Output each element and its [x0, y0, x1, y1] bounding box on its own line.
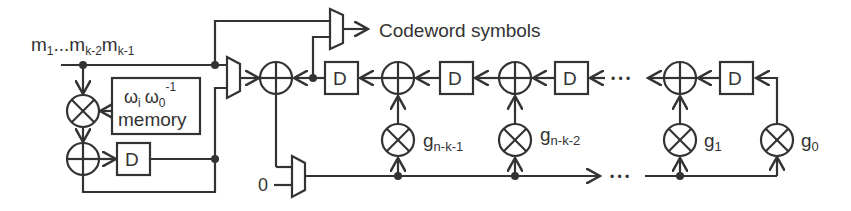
svg-text:D: D	[563, 68, 577, 89]
multiplier-icon	[761, 124, 793, 156]
ellipsis-top: • • •	[611, 72, 630, 86]
coefficient-label: gn-k-2	[540, 124, 580, 148]
input-bus	[61, 61, 227, 69]
delay-register-left: D	[117, 143, 150, 175]
svg-text:D: D	[448, 68, 462, 89]
mux-output	[330, 9, 343, 49]
adder-icon	[382, 62, 414, 94]
svg-text:D: D	[728, 68, 742, 89]
adder-icon	[260, 62, 292, 94]
memory-block: ωiω0-1 memory	[112, 78, 200, 134]
mux-input	[227, 57, 240, 98]
multiplier-icon	[664, 124, 696, 156]
multiplier-icon	[499, 124, 531, 156]
encoder-diagram: m1...mk-2mk-1 ωiω0-1 memory D	[0, 0, 851, 211]
coefficient-label: gn-k-1	[423, 130, 463, 154]
svg-text:D: D	[333, 68, 347, 89]
delay-register-3: D	[555, 62, 588, 94]
zero-input-label: 0	[258, 175, 268, 195]
adder-icon	[664, 62, 696, 94]
svg-text:memory: memory	[118, 109, 187, 130]
mux-feedback	[292, 156, 305, 197]
adder-icon	[499, 62, 531, 94]
adder-icon	[67, 143, 99, 175]
coefficient-label: g1	[704, 130, 722, 154]
multiplier-icon	[67, 95, 99, 127]
delay-register-2: D	[440, 62, 473, 94]
coefficient-label: g0	[801, 130, 819, 154]
ellipsis-bottom: • • •	[610, 170, 629, 184]
svg-text:D: D	[125, 149, 139, 170]
output-label: Codeword symbols	[379, 20, 541, 41]
delay-register-1: D	[325, 62, 358, 94]
delay-register-4: D	[720, 62, 753, 94]
multiplier-icon	[382, 124, 414, 156]
input-label: m1...mk-2mk-1	[31, 34, 135, 58]
